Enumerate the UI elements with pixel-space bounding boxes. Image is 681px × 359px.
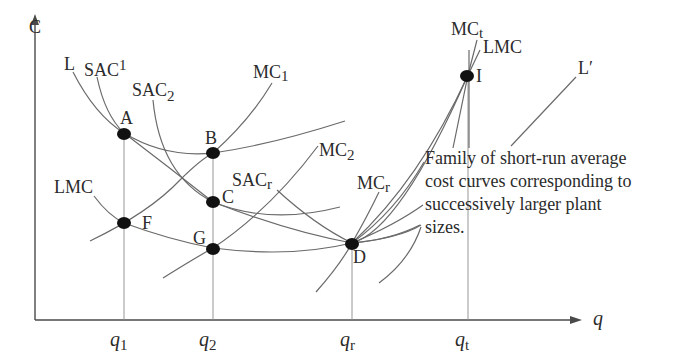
annotation-line-4: sizes. [425,217,465,237]
tick-q2: q2 [199,328,217,353]
curve-MC1 [90,83,272,241]
sac-family-curve-3 [352,225,421,243]
cost-curves-diagram: C q q1 q2 qr qt [0,0,681,359]
guide-lines [124,75,468,320]
label-SAC1: SAC1 [84,57,127,80]
curve-Lprime [511,77,576,146]
point-B [206,147,220,159]
annotation-line-1: Family of short-run average [425,148,626,168]
tick-qt: qt [455,328,470,353]
point-label-B: B [205,128,217,148]
annotation-line-3: successively larger plant [425,194,602,214]
curve-MCt [453,40,477,148]
label-MCr: MCr [357,173,390,195]
annotation-line-2: cost curves corresponding to [425,171,631,191]
x-axis-label: q [593,307,603,330]
label-LMC-top: LMC [483,37,522,57]
curve-SAC2 [153,100,340,215]
label-Lprime: L′ [578,58,593,78]
point-F [117,217,131,229]
point-G [206,243,220,255]
point-label-A: A [120,108,133,128]
point-C [206,196,220,208]
y-axis-label: C [29,17,41,37]
label-L: L [64,54,75,74]
point-label-C: C [222,187,234,207]
label-MCt: MCt [451,19,484,41]
tick-qr: qr [340,328,355,353]
point-label-F: F [142,213,152,233]
label-LMC-left: LMC [54,177,93,197]
point-I [460,70,474,82]
label-SACr: SACr [232,170,272,192]
x-tick-labels: q1 q2 qr qt [110,328,470,353]
point-label-I: I [476,66,482,86]
point-label-D: D [353,247,366,267]
sac-family-curve-4 [379,227,421,283]
point-label-G: G [193,228,206,248]
label-MC1: MC1 [253,62,289,84]
tick-q1: q1 [110,328,128,353]
x-axis-arrow-icon [570,316,582,324]
label-MC2: MC2 [319,140,355,163]
annotation: Family of short-run average cost curves … [425,148,631,237]
point-A [117,128,131,140]
